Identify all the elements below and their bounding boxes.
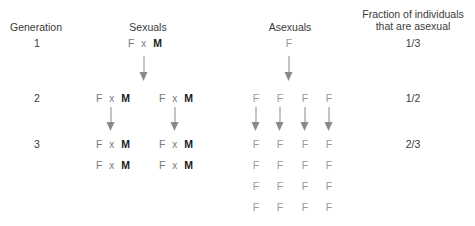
- asexual-female: F: [253, 159, 259, 171]
- fraction-header-line2: that are asexual: [376, 20, 451, 32]
- sexual-cross-gen2-a: FxM: [96, 92, 130, 104]
- asexual-female: F: [326, 92, 332, 104]
- female-symbol: F: [159, 159, 165, 171]
- male-symbol: M: [121, 159, 130, 171]
- down-arrow-icon: [325, 107, 334, 131]
- asexuals-header: Asexuals: [269, 21, 312, 33]
- cross-symbol: x: [172, 93, 177, 104]
- generation-header: Generation: [10, 21, 62, 33]
- male-symbol: M: [184, 138, 193, 150]
- fraction-gen-1: 1/3: [406, 37, 421, 49]
- female-symbol: F: [159, 138, 165, 150]
- asexual-female: F: [277, 159, 283, 171]
- asexual-female: F: [277, 180, 283, 192]
- cross-symbol: x: [109, 93, 114, 104]
- down-arrow-icon: [107, 107, 116, 131]
- asexual-female: F: [253, 138, 259, 150]
- male-symbol: M: [121, 138, 130, 150]
- cross-symbol: x: [109, 160, 114, 171]
- asexual-female: F: [277, 138, 283, 150]
- sexual-cross-gen3-d: FxM: [159, 159, 193, 171]
- asexual-female: F: [326, 180, 332, 192]
- generation-1-label: 1: [34, 37, 40, 49]
- cross-symbol: x: [172, 160, 177, 171]
- sexual-cross-gen3-b: FxM: [159, 138, 193, 150]
- asexual-female: F: [302, 92, 308, 104]
- down-arrow-icon: [276, 107, 285, 131]
- asexual-female: F: [286, 37, 292, 49]
- down-arrow-icon: [171, 107, 180, 131]
- sexual-cross-gen2-b: FxM: [159, 92, 193, 104]
- sexual-cross-gen3-a: FxM: [96, 138, 130, 150]
- asexual-female: F: [253, 180, 259, 192]
- asexual-female: F: [253, 92, 259, 104]
- asexual-female: F: [253, 201, 259, 213]
- sexual-cross-gen1: FxM: [128, 37, 162, 49]
- fraction-gen-3: 2/3: [406, 138, 421, 150]
- male-symbol: M: [184, 159, 193, 171]
- sexual-cross-gen3-c: FxM: [96, 159, 130, 171]
- cross-symbol: x: [141, 38, 146, 49]
- asexual-female: F: [326, 201, 332, 213]
- fraction-header-line1: Fraction of individuals: [362, 8, 464, 20]
- cross-symbol: x: [109, 139, 114, 150]
- male-symbol: M: [121, 92, 130, 104]
- generation-3-label: 3: [34, 138, 40, 150]
- down-arrow-icon: [252, 107, 261, 131]
- female-symbol: F: [96, 138, 102, 150]
- male-symbol: M: [153, 37, 162, 49]
- asexual-female: F: [277, 201, 283, 213]
- male-symbol: M: [184, 92, 193, 104]
- asexual-female: F: [302, 201, 308, 213]
- female-symbol: F: [128, 37, 134, 49]
- female-symbol: F: [96, 92, 102, 104]
- down-arrow-icon: [285, 56, 294, 81]
- sexuals-header: Sexuals: [129, 21, 166, 33]
- down-arrow-icon: [140, 56, 149, 81]
- asexual-female: F: [302, 159, 308, 171]
- asexual-female: F: [302, 138, 308, 150]
- asexual-female: F: [277, 92, 283, 104]
- female-symbol: F: [96, 159, 102, 171]
- generation-2-label: 2: [34, 92, 40, 104]
- asexual-female: F: [302, 180, 308, 192]
- cross-symbol: x: [172, 139, 177, 150]
- fraction-gen-2: 1/2: [406, 92, 421, 104]
- female-symbol: F: [159, 92, 165, 104]
- asexual-female: F: [326, 159, 332, 171]
- down-arrow-icon: [301, 107, 310, 131]
- asexual-female: F: [326, 138, 332, 150]
